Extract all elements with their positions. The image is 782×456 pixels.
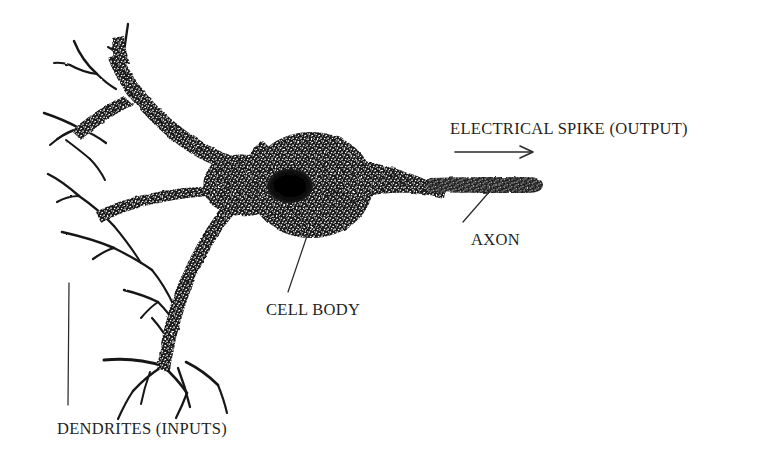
label-dendrites: DENDRITES (INPUTS) xyxy=(57,419,227,438)
label-electrical-spike: ELECTRICAL SPIKE (OUTPUT) xyxy=(450,119,688,138)
neuron-diagram: ELECTRICAL SPIKE (OUTPUT) AXON CELL BODY… xyxy=(0,0,782,456)
label-axon: AXON xyxy=(471,230,520,249)
cell-nucleus xyxy=(267,169,313,203)
label-cell-body: CELL BODY xyxy=(266,300,360,319)
axon-fiber xyxy=(426,177,543,193)
neuron-illustration: ELECTRICAL SPIKE (OUTPUT) AXON CELL BODY… xyxy=(0,0,782,456)
